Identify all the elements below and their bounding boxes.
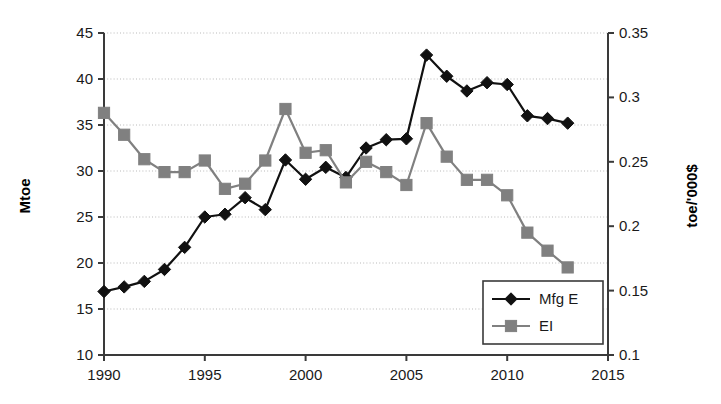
data-point-marker xyxy=(441,151,452,162)
left-axis-tick-label: 20 xyxy=(76,254,93,271)
data-point-marker xyxy=(320,145,331,156)
right-axis-title: toe/'000$ xyxy=(683,164,700,228)
data-point-marker xyxy=(562,262,573,273)
data-point-marker xyxy=(360,156,371,167)
data-point-marker xyxy=(481,174,492,185)
line-chart: 1015202530354045 0.10.150.20.250.30.35 1… xyxy=(0,0,721,404)
right-axis-tick-label: 0.3 xyxy=(619,88,640,105)
x-axis-tick-label: 2015 xyxy=(591,366,624,383)
data-point-marker xyxy=(159,167,170,178)
x-axis-tick-label: 2000 xyxy=(289,366,322,383)
data-point-marker xyxy=(340,177,351,188)
x-axis-tick-label: 2005 xyxy=(390,366,423,383)
right-axis-tick-label: 0.1 xyxy=(619,346,640,363)
left-axis-tick-label: 40 xyxy=(76,70,93,87)
left-axis-tick-label: 35 xyxy=(76,116,93,133)
right-axis-tick-label: 0.35 xyxy=(619,24,648,41)
x-axis-tick-label: 1990 xyxy=(87,366,120,383)
data-point-marker xyxy=(139,154,150,165)
legend-label: EI xyxy=(539,317,553,334)
left-axis-tick-label: 10 xyxy=(76,346,93,363)
right-axis-tick-label: 0.25 xyxy=(619,153,648,170)
data-point-marker xyxy=(260,155,271,166)
data-point-marker xyxy=(219,183,230,194)
data-point-marker xyxy=(401,179,412,190)
data-point-marker xyxy=(179,167,190,178)
data-point-marker xyxy=(381,167,392,178)
data-point-marker xyxy=(280,103,291,114)
legend-label: Mfg E xyxy=(539,290,578,307)
data-point-marker xyxy=(119,129,130,140)
data-point-marker xyxy=(421,118,432,129)
data-point-marker xyxy=(522,227,533,238)
data-point-marker xyxy=(300,147,311,158)
data-point-marker xyxy=(542,245,553,256)
x-axis-tick-label: 2010 xyxy=(491,366,524,383)
chart-background xyxy=(0,0,721,404)
left-axis-tick-label: 25 xyxy=(76,208,93,225)
x-axis-tick-label: 1995 xyxy=(188,366,221,383)
left-axis-title: Mtoe xyxy=(16,179,33,214)
legend-marker-square-icon xyxy=(505,320,516,331)
data-point-marker xyxy=(502,190,513,201)
left-axis-tick-label: 30 xyxy=(76,162,93,179)
data-point-marker xyxy=(240,178,251,189)
chart-container: 1015202530354045 0.10.150.20.250.30.35 1… xyxy=(0,0,721,404)
right-axis-tick-label: 0.15 xyxy=(619,282,648,299)
left-axis-tick-label: 15 xyxy=(76,300,93,317)
chart-legend: Mfg EEI xyxy=(483,281,603,344)
data-point-marker xyxy=(461,174,472,185)
left-axis-tick-label: 45 xyxy=(76,24,93,41)
right-axis-tick-label: 0.2 xyxy=(619,217,640,234)
data-point-marker xyxy=(199,155,210,166)
data-point-marker xyxy=(98,107,109,118)
